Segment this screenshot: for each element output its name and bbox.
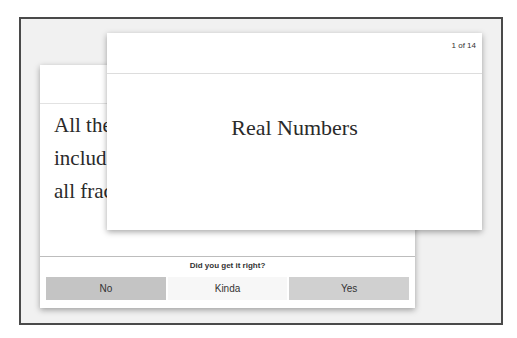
card-header-divider bbox=[107, 73, 482, 74]
no-button[interactable]: No bbox=[46, 277, 166, 300]
kinda-button[interactable]: Kinda bbox=[168, 277, 288, 300]
card-counter: 1 of 14 bbox=[452, 41, 476, 50]
flashcard-viewer: All the includ all frac Did you get it r… bbox=[19, 17, 503, 325]
rating-buttons: No Kinda Yes bbox=[46, 277, 409, 300]
yes-button[interactable]: Yes bbox=[289, 277, 409, 300]
rating-question: Did you get it right? bbox=[40, 261, 415, 270]
term-card[interactable]: 1 of 14 Real Numbers bbox=[107, 33, 482, 230]
card-term: Real Numbers bbox=[107, 115, 482, 141]
rating-divider bbox=[40, 256, 415, 257]
